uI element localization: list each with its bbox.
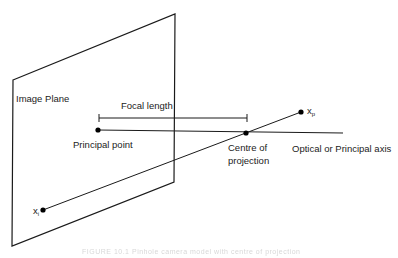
world-point-label: xp [307, 104, 315, 121]
centre-of-projection-label: Centre of projection [228, 141, 269, 167]
figure-caption: FIGURE 10.1 Pinhole camera model with ce… [82, 248, 300, 255]
centre-of-projection-line1: Centre of [228, 141, 269, 154]
centre-of-projection-line2: projection [228, 154, 269, 167]
image-plane-label: Image Plane [16, 92, 69, 105]
centre-of-projection-dot [243, 130, 248, 135]
principal-point-dot [95, 127, 100, 132]
world-point-dot [298, 109, 303, 114]
image-point-label: xi [33, 204, 39, 221]
optical-axis-label: Optical or Principal axis [292, 142, 391, 155]
image-point-label-sub: i [38, 211, 39, 217]
principal-point-label: Principal point [73, 138, 133, 151]
pinhole-camera-diagram: Image Plane Focal length Principal point… [0, 0, 398, 258]
focal-length-label: Focal length [121, 99, 173, 112]
diagram-graphics [0, 0, 398, 258]
image-point-dot [40, 207, 45, 212]
world-point-label-sub: p [312, 111, 315, 117]
optical-axis-line [98, 130, 343, 133]
